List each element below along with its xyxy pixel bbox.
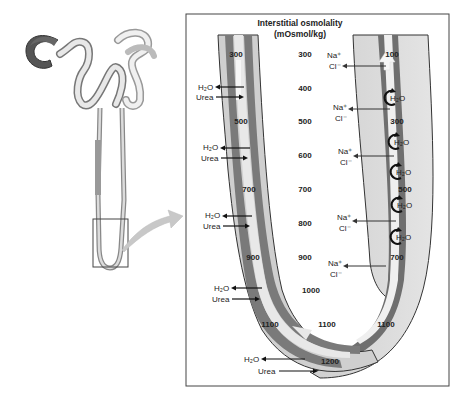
urea-label: Urea bbox=[258, 367, 276, 376]
nephron-overview bbox=[26, 33, 183, 268]
interstitial-value: 500 bbox=[298, 117, 312, 126]
na-label: Na⁺ bbox=[333, 103, 347, 112]
urea-label: Urea bbox=[212, 295, 230, 304]
tubular-value: 300 bbox=[229, 50, 243, 59]
h2o-label: H₂O bbox=[214, 284, 229, 293]
interstitial-value: 400 bbox=[298, 84, 312, 93]
tubular-value: 300 bbox=[390, 117, 404, 126]
interstitial-value: 700 bbox=[298, 185, 312, 194]
interstitial-value: 800 bbox=[298, 219, 312, 228]
cl-label: Cl⁻ bbox=[329, 62, 341, 71]
h2o-label: H₂O bbox=[198, 83, 213, 92]
na-label: Na⁺ bbox=[328, 259, 342, 268]
zoom-arrow bbox=[122, 210, 183, 252]
h2o-label: H₂O bbox=[244, 355, 259, 364]
cl-label: Cl⁻ bbox=[330, 270, 342, 279]
h2o-label: H₂O bbox=[205, 211, 220, 220]
tubular-value: 500 bbox=[234, 117, 248, 126]
urea-label: Urea bbox=[201, 154, 219, 163]
svg-text:H₂O: H₂O bbox=[390, 94, 405, 103]
interstitial-value: 1000 bbox=[302, 286, 320, 295]
svg-text:H₂O: H₂O bbox=[396, 233, 411, 242]
h2o-label: H₂O bbox=[203, 143, 218, 152]
tubular-value: 900 bbox=[246, 253, 260, 262]
title-line2: (mOsmol/kg) bbox=[274, 29, 326, 39]
interstitial-value: 900 bbox=[298, 253, 312, 262]
urea-label: Urea bbox=[203, 222, 221, 231]
urea-label: Urea bbox=[196, 93, 214, 102]
tubular-value: 500 bbox=[398, 185, 412, 194]
interstitial-value: 300 bbox=[298, 50, 312, 59]
na-label: Na⁺ bbox=[338, 147, 352, 156]
cl-label: Cl⁻ bbox=[335, 114, 347, 123]
interstitial-value: 1100 bbox=[318, 320, 336, 329]
svg-text:H₂O: H₂O bbox=[397, 201, 412, 210]
cl-label: Cl⁻ bbox=[340, 158, 352, 167]
cl-label: Cl⁻ bbox=[339, 224, 351, 233]
tubular-value: 1100 bbox=[377, 320, 395, 329]
loop-of-henle-diagram: Interstitial osmolality (mOsmol/kg) 300 … bbox=[0, 0, 464, 400]
tubular-value: 700 bbox=[390, 253, 404, 262]
svg-text:H₂O: H₂O bbox=[396, 168, 411, 177]
title-line1: Interstitial osmolality bbox=[257, 18, 342, 28]
na-label: Na⁺ bbox=[337, 213, 351, 222]
tubular-value: 1100 bbox=[261, 320, 279, 329]
tubular-value: 700 bbox=[242, 185, 256, 194]
svg-text:H₂O: H₂O bbox=[394, 138, 409, 147]
na-label: Na⁺ bbox=[327, 51, 341, 60]
interstitial-value: 600 bbox=[298, 151, 312, 160]
tubular-value: 100 bbox=[385, 50, 399, 59]
tubular-value: 1200 bbox=[321, 357, 339, 366]
